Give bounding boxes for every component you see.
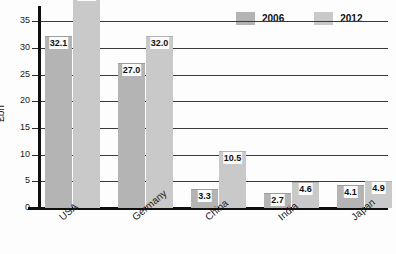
bar-group-china: 3.310.5 (191, 8, 247, 208)
bar-value-label: 32.1 (49, 37, 69, 49)
y-tick-label: 30 (0, 43, 30, 52)
y-tick-10: 10 (0, 150, 30, 159)
bar-value-label: 4.9 (371, 182, 386, 194)
bar-group-usa: 32.141.0 (45, 8, 101, 208)
bar-value-label: 4.1 (343, 186, 358, 198)
y-tick-label: 15 (0, 123, 30, 132)
bar-value-label: 3.3 (197, 190, 212, 202)
y-tick-label: 0 (0, 203, 30, 212)
bar-value-label: 27.0 (122, 64, 142, 76)
bar-value-label: 10.5 (223, 152, 243, 164)
bar-value-label: 4.6 (298, 183, 313, 195)
bar-group-germany: 27.032.0 (118, 8, 174, 208)
bar-usa-2006: 32.1 (45, 36, 72, 208)
bar-group-japan: 4.14.9 (337, 8, 393, 208)
y-tick-label: 10 (0, 150, 30, 159)
y-tick-0: 0 (0, 203, 30, 212)
y-tick-15: 15 (0, 123, 30, 132)
y-tick-35: 35 (0, 16, 30, 25)
y-axis-title: £bn (0, 105, 6, 122)
bar-value-label: 2.7 (270, 194, 285, 206)
y-tick-label: 25 (0, 70, 30, 79)
bar-germany-2006: 27.0 (118, 63, 145, 208)
bar-usa-2012: 41.0 (73, 0, 100, 208)
y-tick-30: 30 (0, 43, 30, 52)
y-tick-5: 5 (0, 176, 30, 185)
y-tick-label: 20 (0, 96, 30, 105)
bar-value-label: 32.0 (150, 37, 170, 49)
bar-group-india: 2.74.6 (264, 8, 320, 208)
bar-chart: 2006 2012 £bn 05101520253035 32.141.027.… (0, 0, 396, 254)
y-tick-label: 5 (0, 176, 30, 185)
y-tick-20: 20 (0, 96, 30, 105)
y-tick-label: 35 (0, 16, 30, 25)
bar-germany-2012: 32.0 (146, 36, 173, 208)
plot-area: 32.141.027.032.03.310.52.74.64.14.9 (41, 8, 388, 208)
bar-value-label: 41.0 (77, 0, 97, 1)
y-tick-25: 25 (0, 70, 30, 79)
